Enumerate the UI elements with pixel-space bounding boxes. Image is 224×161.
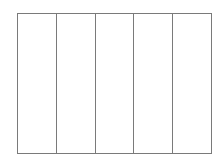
column-grid-frame [17,13,212,154]
grid-column-2 [57,14,96,153]
grid-column-1 [18,14,57,153]
grid-column-4 [134,14,173,153]
grid-column-3 [96,14,135,153]
grid-column-5 [173,14,211,153]
